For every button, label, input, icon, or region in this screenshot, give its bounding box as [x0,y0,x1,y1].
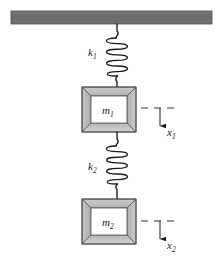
ceiling-support [11,11,212,24]
spring-1-label-sub: 1 [93,52,97,61]
displacement-1: x1 [141,108,178,141]
displacement-2-label-sub: 2 [172,245,176,254]
displacement-1-label-sub: 1 [172,132,176,141]
spring-2-label-sub: 2 [93,166,97,175]
mass-2: m2 [82,199,136,244]
displacement-2: x2 [141,221,178,254]
spring-1-top-wire [116,24,118,38]
diagram-canvas: k1 m1 x1 k2 [0,0,221,263]
spring-2-label: k2 [88,160,97,175]
spring-2-top-wire [116,132,118,146]
mass-2-label-sub: 2 [110,222,114,231]
spring-1: k1 [88,24,128,87]
displacement-1-label: x1 [166,126,176,141]
spring-1-label: k1 [88,46,97,61]
mass-2-label-m: m [102,216,110,228]
mass-1: m1 [82,87,136,132]
displacement-2-label: x2 [166,239,176,254]
spring-2: k2 [88,132,128,199]
mass-1-label-m: m [102,104,110,116]
ceiling-bar [11,11,212,24]
spring-1-bottom-wire [116,76,118,87]
spring-1-coils [106,38,127,76]
spring-2-coils [106,146,127,184]
spring-mass-diagram: k1 m1 x1 k2 [0,0,221,263]
mass-1-label-sub: 1 [110,110,114,119]
spring-2-bottom-wire [116,184,118,199]
